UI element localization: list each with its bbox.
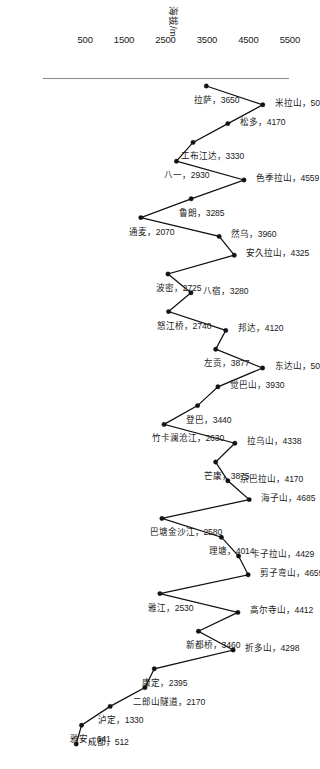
- point-label: 成都，512: [88, 738, 129, 747]
- point-label: 新都桥，3460: [186, 641, 240, 650]
- chart-frame: 55004500350025001500500 海拔/m 拉萨，3650米拉山，…: [0, 0, 293, 769]
- y-tick-label: 500: [59, 34, 93, 45]
- point-label: 八一，2930: [164, 171, 209, 180]
- plot-area: 拉萨，3650米拉山，5013松多，4170工布江达，3330八一，2930色季…: [55, 78, 283, 758]
- point-label-layer: 拉萨，3650米拉山，5013松多，4170工布江达，3330八一，2930色季…: [55, 78, 283, 758]
- point-label: 宗巴拉山，4170: [240, 475, 293, 484]
- point-label: 通麦，2070: [129, 228, 174, 237]
- point-label: 拉乌山，4338: [247, 437, 293, 446]
- point-label: 米拉山，5013: [275, 99, 293, 108]
- point-label: 八宿，3280: [203, 287, 248, 296]
- point-label: 然乌，3960: [231, 230, 276, 239]
- point-label: 雅江，2530: [148, 604, 193, 613]
- point-label: 高尔寺山，4412: [250, 606, 293, 615]
- point-label: 竹卡澜沧江，2630: [152, 434, 224, 443]
- point-label: 泸定，1330: [98, 716, 143, 725]
- elevation-profile-figure: 55004500350025001500500 海拔/m 拉萨，3650米拉山，…: [0, 0, 293, 769]
- point-label: 剪子弯山，4659: [260, 569, 293, 578]
- point-label: 二郎山隧道，2170: [133, 698, 205, 707]
- point-label: 松多，4170: [240, 118, 285, 127]
- y-tick-label: 4500: [225, 34, 259, 45]
- point-label: 东达山，5008: [275, 362, 293, 371]
- point-label: 理塘，4014: [209, 547, 254, 556]
- point-label: 安久拉山，4325: [246, 249, 293, 258]
- point-label: 色季拉山，4559: [256, 174, 293, 183]
- point-label: 觉巴山，3930: [230, 381, 284, 390]
- point-label: 邦达，4120: [238, 324, 283, 333]
- point-label: 工布江达，3330: [181, 152, 244, 161]
- point-label: 折多山，4298: [245, 644, 293, 653]
- point-label: 鲁朗，3285: [179, 209, 224, 218]
- point-label: 海子山，4685: [261, 494, 293, 503]
- point-label: 登巴，3440: [186, 416, 231, 425]
- point-label: 巴塘金沙江，2580: [150, 528, 222, 537]
- point-label: 波密，2725: [156, 284, 201, 293]
- y-tick-label: 1500: [100, 34, 134, 45]
- point-label: 康定，2395: [142, 679, 187, 688]
- point-label: 拉萨，3650: [194, 96, 239, 105]
- point-label: 怒江桥，2740: [157, 322, 211, 331]
- point-label: 左贡，3877: [204, 359, 249, 368]
- point-label: 卡子拉山，4429: [251, 550, 293, 559]
- y-axis-title: 海拔/m: [167, 6, 181, 37]
- y-tick-label: 5500: [266, 34, 293, 45]
- y-tick-label: 3500: [183, 34, 217, 45]
